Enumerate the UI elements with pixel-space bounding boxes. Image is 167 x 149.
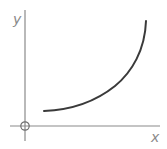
exponential-curve	[44, 21, 146, 111]
x-axis-label: x	[150, 129, 160, 145]
function-graph: y x	[0, 0, 167, 149]
y-axis-label: y	[12, 11, 22, 27]
